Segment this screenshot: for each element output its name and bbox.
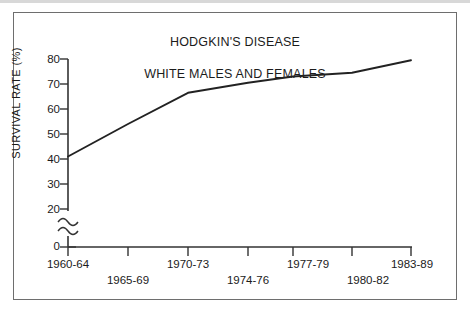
chart-screenshot: HODGKIN'S DISEASE WHITE MALES AND FEMALE… bbox=[0, 0, 470, 316]
axis-break-squiggle-lower bbox=[58, 228, 78, 235]
axis-break-squiggle-upper bbox=[58, 219, 78, 226]
survival-rate-line bbox=[68, 60, 411, 156]
chart-plot-area: HODGKIN'S DISEASE WHITE MALES AND FEMALE… bbox=[0, 0, 470, 316]
chart-svg bbox=[0, 0, 470, 316]
